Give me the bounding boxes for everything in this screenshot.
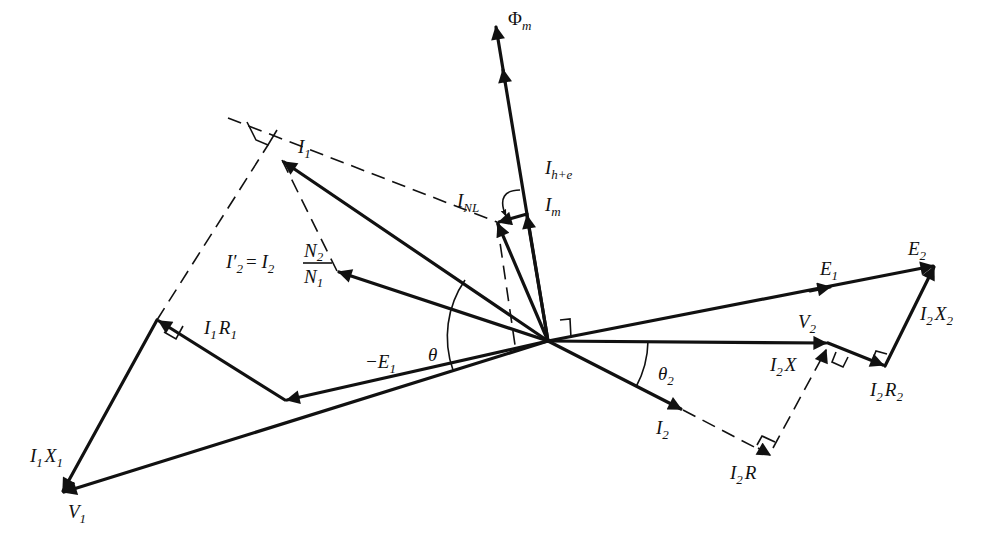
ihe-pointer-arrow bbox=[503, 190, 520, 216]
svg-text:N2: N2 bbox=[303, 240, 324, 264]
vector-neg-e1 bbox=[287, 341, 548, 400]
vector-i-he bbox=[499, 214, 527, 222]
svg-text:N1: N1 bbox=[303, 266, 323, 290]
right-angle-marker-i2r bbox=[757, 436, 775, 445]
arrowhead-i2x bbox=[822, 350, 826, 360]
label-i2-prime: I′2= I2 N2 N1 bbox=[225, 240, 332, 290]
theta2-arc bbox=[636, 341, 648, 387]
dashed-line-i2-ext bbox=[683, 410, 760, 450]
vector-i-m bbox=[527, 216, 548, 341]
label-neg-e1: −E1 bbox=[365, 351, 396, 376]
label-theta: θ bbox=[428, 344, 437, 365]
label-i-nl: INL bbox=[456, 190, 479, 215]
label-theta2: θ2 bbox=[658, 363, 674, 388]
label-i2r: I2R bbox=[729, 462, 757, 487]
phasor-diagram: Φm I1 Ih+e INL Im I′2= I2 N2 N1 I1R1 θ −… bbox=[0, 0, 987, 545]
label-i1x1: I1X1 bbox=[29, 445, 63, 470]
svg-text:I′2= I2: I′2= I2 bbox=[225, 251, 275, 276]
label-v2: V2 bbox=[798, 311, 817, 336]
label-i2: I2 bbox=[655, 417, 669, 442]
arrowhead-phi-m-mid bbox=[503, 70, 505, 82]
label-i1r1: I1R1 bbox=[203, 317, 237, 342]
labels: Φm I1 Ih+e INL Im I′2= I2 N2 N1 I1R1 θ −… bbox=[29, 8, 953, 526]
theta-arc bbox=[447, 280, 465, 370]
vector-i1x1 bbox=[63, 320, 157, 491]
right-angle-marker-top-left bbox=[247, 122, 277, 145]
vector-v1 bbox=[64, 341, 548, 492]
label-e2: E2 bbox=[907, 238, 927, 263]
label-i-he: Ih+e bbox=[544, 157, 573, 182]
label-i2x: I2X bbox=[769, 354, 798, 379]
dashed-line-i1x1-ext bbox=[157, 145, 268, 320]
arrowhead-i2r bbox=[758, 448, 770, 455]
arrowhead-e1-mid bbox=[810, 287, 830, 291]
label-i-m: Im bbox=[544, 194, 561, 219]
right-angle-marker-origin bbox=[560, 319, 571, 338]
right-angle-marker-v2 bbox=[832, 352, 848, 367]
label-e1: E1 bbox=[819, 258, 838, 283]
phasor-vectors bbox=[63, 27, 934, 492]
label-i2r2: I2R2 bbox=[869, 379, 903, 404]
right-angle-marker-i2r2 bbox=[872, 351, 887, 361]
label-i1: I1 bbox=[297, 136, 311, 161]
vector-v2 bbox=[548, 341, 826, 343]
vector-i2-prime bbox=[339, 272, 548, 341]
label-phi-m: Φm bbox=[508, 8, 531, 33]
label-v1: V1 bbox=[68, 501, 86, 526]
vector-e1-e2 bbox=[548, 266, 933, 341]
label-i2x2: I2X2 bbox=[919, 303, 953, 328]
construction-lines bbox=[157, 118, 826, 450]
